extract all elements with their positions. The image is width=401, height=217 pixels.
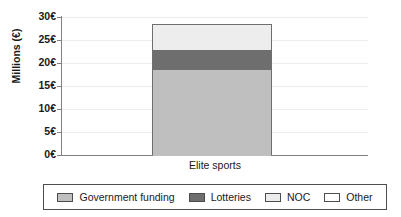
legend-item-other[interactable]: Other bbox=[324, 192, 372, 203]
y-axis-tick-mark bbox=[57, 63, 61, 64]
y-axis-tick-mark bbox=[57, 155, 61, 156]
legend-swatch-icon bbox=[324, 193, 340, 202]
y-axis-tick-label: 5€ bbox=[10, 126, 56, 137]
chart-figure: Millions (€) 0€5€10€15€20€25€30€ Elite s… bbox=[0, 0, 401, 217]
y-axis-tick-label: 0€ bbox=[10, 149, 56, 160]
y-axis-tick-mark bbox=[57, 132, 61, 133]
plot-area bbox=[62, 17, 368, 155]
y-axis-tick-mark bbox=[57, 17, 61, 18]
y-axis-tick-mark bbox=[57, 86, 61, 87]
y-axis-tick-mark bbox=[57, 109, 61, 110]
legend-swatch-icon bbox=[265, 193, 281, 202]
bar-segment-lotteries[interactable] bbox=[153, 50, 271, 68]
legend-item-lotteries[interactable]: Lotteries bbox=[189, 192, 251, 203]
legend-item-government-funding[interactable]: Government funding bbox=[57, 192, 174, 203]
y-axis-tick-mark bbox=[57, 40, 61, 41]
chart-legend: Government fundingLotteriesNOCOther bbox=[43, 184, 387, 210]
x-axis-category-label: Elite sports bbox=[62, 160, 368, 171]
legend-label: NOC bbox=[287, 192, 310, 203]
legend-label: Lotteries bbox=[211, 192, 251, 203]
legend-item-noc[interactable]: NOC bbox=[265, 192, 310, 203]
legend-swatch-icon bbox=[189, 193, 205, 202]
bar-segment-noc[interactable] bbox=[153, 25, 271, 50]
legend-swatch-icon bbox=[57, 193, 73, 202]
y-axis-tick-label: 25€ bbox=[10, 34, 56, 45]
y-axis-tick-label: 10€ bbox=[10, 103, 56, 114]
y-axis-tick-label: 15€ bbox=[10, 80, 56, 91]
gridline bbox=[62, 17, 368, 18]
y-axis-tick-label: 30€ bbox=[10, 11, 56, 22]
y-axis-tick-label: 20€ bbox=[10, 57, 56, 68]
legend-label: Other bbox=[346, 192, 372, 203]
legend-label: Government funding bbox=[79, 192, 174, 203]
bar-segment-government-funding[interactable] bbox=[153, 69, 271, 156]
stacked-bar-elite-sports[interactable] bbox=[152, 24, 272, 155]
